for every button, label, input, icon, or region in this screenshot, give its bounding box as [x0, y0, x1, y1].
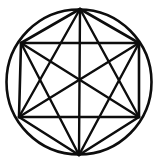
edge-lower-left-to-upper-left: [19, 43, 21, 117]
figure-canvas: [0, 0, 157, 164]
main-top-to-bottom: [79, 9, 80, 155]
geometric-figure-svg: [0, 0, 157, 164]
